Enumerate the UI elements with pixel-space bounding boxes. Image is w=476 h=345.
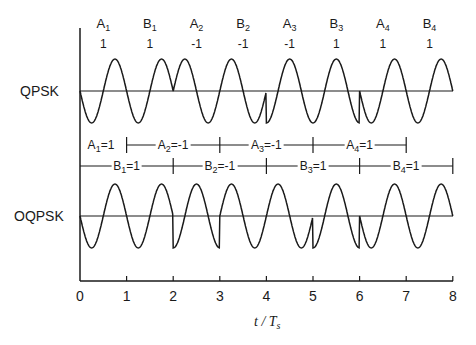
- symbol-value: 1: [88, 37, 118, 51]
- symbol-value: 1: [368, 37, 398, 51]
- symbol-name: B3: [321, 17, 351, 35]
- symbol-value: 1: [321, 37, 351, 51]
- x-tick-label: 3: [210, 288, 230, 304]
- symbol-value: -1: [228, 37, 258, 51]
- symbol-name: B1: [135, 17, 165, 35]
- bit-label: A4=1: [344, 139, 375, 155]
- symbol-name: B4: [415, 17, 445, 35]
- bit-label: A1=1: [86, 139, 117, 155]
- symbol-name: A1: [88, 17, 118, 35]
- symbol-name: A2: [182, 17, 212, 35]
- symbol-name: A4: [368, 17, 398, 35]
- bit-label: B4=1: [391, 160, 422, 176]
- symbol-value: -1: [275, 37, 305, 51]
- bit-label: A2=-1: [156, 139, 191, 155]
- x-tick-label: 8: [443, 288, 463, 304]
- x-tick-label: 2: [163, 288, 183, 304]
- x-tick-label: 6: [350, 288, 370, 304]
- bit-label: B3=1: [298, 160, 329, 176]
- symbol-value: -1: [182, 37, 212, 51]
- symbol-value: 1: [135, 37, 165, 51]
- qpsk-label: QPSK: [20, 84, 59, 98]
- symbol-value: 1: [415, 37, 445, 51]
- x-tick-label: 7: [396, 288, 416, 304]
- x-tick-label: 1: [117, 288, 137, 304]
- bit-label: A3=-1: [249, 139, 284, 155]
- x-axis-label: t / Ts: [254, 314, 280, 331]
- x-tick-label: 5: [303, 288, 323, 304]
- oqpsk-label: OQPSK: [14, 209, 64, 223]
- x-tick-label: 0: [70, 288, 90, 304]
- bit-label: B1=1: [111, 160, 142, 176]
- symbol-name: A3: [275, 17, 305, 35]
- symbol-name: B2: [228, 17, 258, 35]
- bit-label: B2=-1: [202, 160, 237, 176]
- x-tick-label: 4: [256, 288, 276, 304]
